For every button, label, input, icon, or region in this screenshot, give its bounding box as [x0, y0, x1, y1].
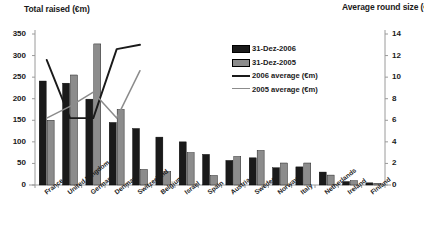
legend-line-2005	[232, 88, 250, 89]
line-2006-average	[47, 45, 140, 118]
left-axis-tick: 350	[0, 29, 26, 38]
right-axis-tick: 8	[392, 94, 418, 103]
right-axis-tick: 2	[392, 158, 418, 167]
bar-2006	[319, 172, 326, 185]
legend-swatch-2005	[232, 59, 250, 67]
right-axis-tick: 6	[392, 115, 418, 124]
right-axis-tick: 10	[392, 72, 418, 81]
bar-group	[203, 154, 218, 185]
left-axis-tick: 150	[0, 115, 26, 124]
bar-group	[226, 157, 241, 185]
bar-group	[249, 150, 264, 185]
bar-2005	[187, 153, 194, 185]
bar-group	[63, 75, 78, 185]
left-axis-tick: 100	[0, 137, 26, 146]
left-axis-tick: 0	[0, 180, 26, 189]
legend-label: 31-Dez-2005	[252, 58, 296, 67]
bar-2005	[257, 150, 264, 185]
legend-label: 2005 average (€m)	[252, 85, 318, 94]
plot-area	[0, 0, 424, 241]
chart-figure: Total raised (€m) Average round size (€m…	[0, 0, 424, 241]
bar-2006	[366, 183, 373, 185]
left-axis-tick: 200	[0, 94, 26, 103]
right-axis-tick: 14	[392, 29, 418, 38]
bar-group	[39, 81, 54, 185]
bar-2006	[203, 154, 210, 185]
bar-2006	[226, 160, 233, 185]
bar-2005	[47, 120, 54, 185]
right-axis-tick: 0	[392, 180, 418, 189]
bar-2006	[39, 81, 46, 185]
bar-2006	[63, 83, 70, 185]
left-axis-tick: 250	[0, 72, 26, 81]
right-axis-tick: 12	[392, 51, 418, 60]
legend-line-2006	[232, 75, 250, 77]
right-axis-tick: 4	[392, 137, 418, 146]
left-axis-tick: 300	[0, 51, 26, 60]
legend-label: 2006 average (€m)	[252, 71, 318, 80]
bar-2005	[117, 110, 124, 186]
left-axis-tick: 50	[0, 158, 26, 167]
legend-swatch-2006	[232, 45, 250, 53]
bar-2005	[70, 75, 77, 185]
legend-label: 31-Dez-2006	[252, 44, 296, 53]
